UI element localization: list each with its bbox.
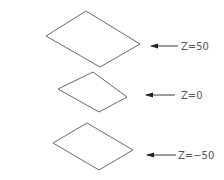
- label-z50: Z=50: [181, 41, 209, 52]
- plane-z-minus-50: [53, 123, 133, 170]
- arrow-left-icon: [145, 93, 153, 98]
- arrow-z-minus-50: Z=−50: [146, 150, 214, 161]
- plane-z50: [46, 11, 140, 67]
- arrow-left-icon: [146, 153, 154, 158]
- diagram-canvas: Z=50 Z=0 Z=−50: [0, 0, 224, 180]
- arrow-left-icon: [150, 44, 158, 49]
- arrow-z50: Z=50: [150, 41, 209, 52]
- label-z-minus-50: Z=−50: [178, 150, 214, 161]
- plane-z0: [58, 72, 127, 112]
- arrow-z0: Z=0: [145, 90, 203, 101]
- label-z0: Z=0: [181, 90, 203, 101]
